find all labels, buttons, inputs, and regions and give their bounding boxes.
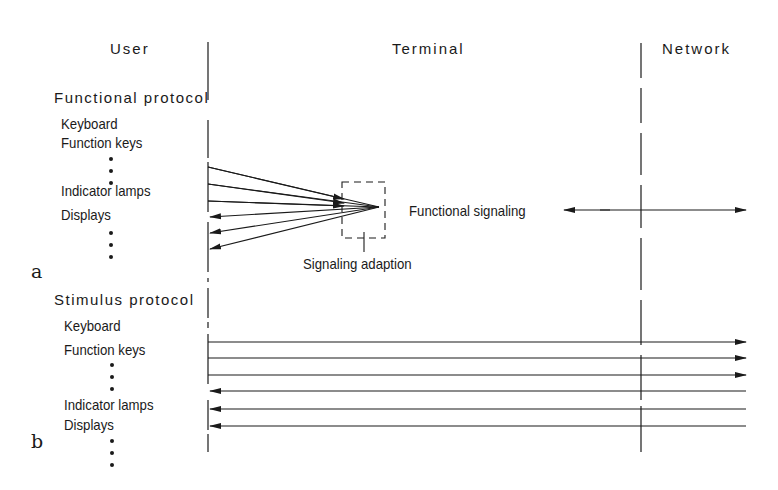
functional-inbound-lines [208, 167, 379, 207]
protocol-diagram [0, 0, 778, 490]
functional-protocol-title: Functional protocol [54, 90, 209, 105]
ellipsis-dot [110, 375, 114, 379]
signaling-adaption-box [342, 182, 385, 238]
ellipsis-dot [110, 363, 114, 367]
part-b-item-keyboard: Keyboard [64, 318, 121, 333]
part-a-item-keyboard: Keyboard [61, 116, 118, 131]
part-b-item-indicator-lamps: Indicator lamps [64, 397, 154, 412]
functional-signaling-label: Functional signaling [409, 203, 526, 218]
ellipsis-dot [110, 451, 114, 455]
stimulus-from-network-lines [210, 391, 746, 426]
part-a-item-displays: Displays [61, 207, 111, 222]
ellipsis-dot [110, 387, 114, 391]
part-a-item-function-keys: Function keys [61, 135, 142, 150]
part-b-item-displays: Displays [64, 417, 114, 432]
ellipsis-dot [109, 243, 113, 247]
part-a-marker: a [31, 262, 42, 281]
part-b-item-function-keys: Function keys [64, 342, 145, 357]
ellipsis-dot [109, 169, 113, 173]
ellipsis-dot [109, 231, 113, 235]
ellipsis-dot [110, 463, 114, 467]
stimulus-protocol-title: Stimulus protocol [54, 292, 195, 307]
ellipsis-dot [109, 157, 113, 161]
ellipsis-dot [109, 255, 113, 259]
column-network-label: Network [662, 41, 731, 56]
part-b-marker: b [31, 432, 43, 451]
column-user-label: User [110, 41, 150, 56]
functional-outbound-lines [210, 207, 379, 249]
column-terminal-label: Terminal [392, 41, 465, 56]
signaling-adaption-label: Signaling adaption [303, 256, 412, 271]
stimulus-to-network-lines [208, 342, 746, 375]
part-a-item-indicator-lamps: Indicator lamps [61, 183, 151, 198]
ellipsis-dot [110, 439, 114, 443]
